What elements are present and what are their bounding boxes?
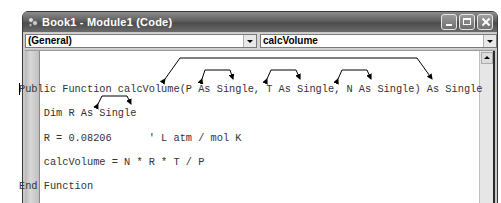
close-button[interactable] — [477, 14, 493, 30]
code-line-calc[interactable]: calcVolume = N * R * T / P — [19, 156, 204, 168]
code-line-assign-r[interactable]: R = 0.08206 ' L atm / mol K — [19, 132, 241, 144]
chevron-down-icon[interactable] — [243, 35, 256, 47]
procedure-dropdown-value: calcVolume — [263, 35, 318, 46]
code-line-end-function[interactable]: End Function — [19, 180, 93, 192]
code-line-dim[interactable]: Dim R As Single — [19, 107, 136, 119]
combo-row: (General) calcVolume — [25, 33, 495, 49]
procedure-dropdown[interactable]: calcVolume — [260, 34, 497, 48]
vertical-scrollbar[interactable] — [479, 51, 495, 203]
scroll-up-arrow-icon[interactable] — [481, 52, 493, 64]
object-dropdown[interactable]: (General) — [25, 34, 257, 48]
code-line-function-declaration[interactable]: Public Function calcVolume(P As Single, … — [19, 83, 482, 95]
chevron-down-icon[interactable] — [483, 35, 496, 47]
window-controls — [441, 14, 493, 30]
maximize-button[interactable] — [459, 14, 475, 30]
object-dropdown-value: (General) — [28, 35, 72, 46]
code-editor[interactable] — [25, 50, 495, 203]
minimize-button[interactable] — [441, 14, 457, 30]
vba-module-icon — [27, 16, 39, 28]
title-bar[interactable]: Book1 - Module1 (Code) — [23, 12, 497, 32]
window-title: Book1 - Module1 (Code) — [42, 12, 172, 32]
text-cursor — [19, 83, 20, 95]
